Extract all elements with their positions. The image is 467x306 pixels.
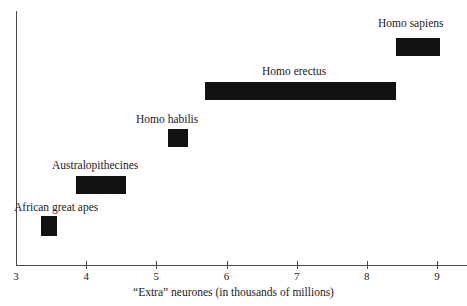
x-tick-label-9: 9 [427, 270, 447, 283]
x-tick-label-6: 6 [217, 270, 237, 283]
x-tick-label-7: 7 [287, 270, 307, 283]
bar-african-great-apes [41, 216, 56, 236]
bar-homo-sapiens [396, 38, 440, 56]
bar-australopithecines [76, 176, 127, 194]
neurones-range-chart: 3456789 African great apesAustralopithec… [0, 0, 467, 306]
x-tick-label-3: 3 [6, 270, 26, 283]
series-label-australopithecines: Australopithecines [52, 158, 138, 172]
x-tick-6 [227, 261, 228, 269]
series-label-homo-habilis: Homo habilis [136, 112, 198, 126]
series-label-homo-erectus: Homo erectus [262, 64, 326, 78]
y-axis-line [16, 11, 17, 266]
x-tick-4 [86, 261, 87, 269]
series-label-african-great-apes: African great apes [14, 200, 98, 214]
x-tick-8 [367, 261, 368, 269]
x-tick-9 [437, 261, 438, 269]
bar-homo-erectus [205, 82, 396, 100]
series-label-homo-sapiens: Homo sapiens [378, 16, 443, 30]
x-axis-title: “Extra” neurones (in thousands of millio… [0, 285, 467, 299]
x-tick-label-8: 8 [357, 270, 377, 283]
x-axis-line [16, 265, 467, 266]
x-tick-label-5: 5 [146, 270, 166, 283]
bar-homo-habilis [168, 129, 188, 147]
x-tick-label-4: 4 [76, 270, 96, 283]
x-tick-5 [156, 261, 157, 269]
x-tick-7 [297, 261, 298, 269]
